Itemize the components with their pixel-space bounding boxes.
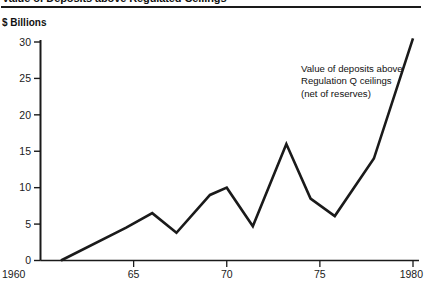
y-axis-tick-labels: 051015202530 bbox=[19, 36, 31, 266]
x-tick-label: 75 bbox=[314, 268, 326, 280]
series-annotation-text: Value of deposits above Regulation Q cei… bbox=[301, 63, 405, 100]
x-tick-label: 1960 bbox=[2, 268, 26, 280]
x-tick-label: 70 bbox=[221, 268, 233, 280]
y-axis: 051015202530 bbox=[19, 36, 40, 266]
y-tick-label: 0 bbox=[25, 254, 31, 266]
x-tick-label: 65 bbox=[128, 268, 140, 280]
x-axis-tick-labels: 19606570751980 bbox=[2, 268, 423, 280]
y-tick-label: 20 bbox=[19, 109, 31, 121]
y-tick-label: 10 bbox=[19, 181, 31, 193]
x-tick-label: 1980 bbox=[400, 268, 424, 280]
y-tick-label: 15 bbox=[19, 145, 31, 157]
y-tick-label: 30 bbox=[19, 36, 31, 48]
x-axis-ticks bbox=[134, 261, 413, 268]
x-axis: 19606570751980 bbox=[2, 261, 423, 281]
line-chart-plot: 051015202530 19606570751980 bbox=[0, 0, 425, 284]
y-tick-label: 25 bbox=[19, 72, 31, 84]
chart-figure: Value of Deposits above Regulated Ceilin… bbox=[0, 0, 425, 284]
y-tick-label: 5 bbox=[25, 218, 31, 230]
